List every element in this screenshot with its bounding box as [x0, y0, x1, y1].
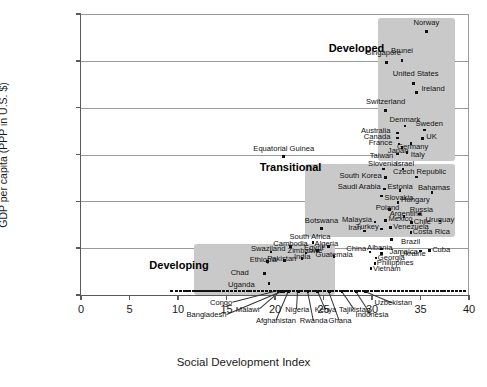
data-point: [226, 290, 229, 292]
x-tick-mark: [274, 295, 275, 300]
point-label: Vietnam: [373, 265, 401, 273]
data-point: [421, 137, 424, 140]
point-label: Cuba: [432, 246, 450, 254]
point-label: Iran: [348, 224, 361, 232]
point-label: Guatemala: [316, 251, 353, 259]
data-point: [390, 238, 393, 241]
point-label: Equatorial Guinea: [253, 145, 314, 153]
y-tick-mark: [76, 201, 81, 202]
data-point: [170, 290, 173, 292]
data-point: [230, 290, 233, 292]
data-point: [436, 290, 439, 292]
point-label: Chad: [231, 269, 249, 277]
data-point: [323, 290, 326, 292]
point-label: Estonia: [387, 183, 412, 191]
point-label: Swaziland: [251, 245, 286, 253]
y-tick-mark: [76, 247, 81, 248]
x-tick-label: 0: [78, 303, 84, 315]
data-point: [261, 290, 264, 292]
data-point: [335, 290, 338, 292]
point-label: Hungary: [401, 196, 430, 204]
data-point: [282, 155, 285, 158]
data-point: [377, 290, 380, 292]
data-point: [451, 290, 454, 292]
data-point: [383, 188, 386, 191]
x-tick-mark: [226, 295, 227, 300]
y-tick-mark: [76, 13, 81, 14]
data-point: [374, 290, 377, 292]
point-label: Switzerland: [366, 98, 405, 106]
data-point: [292, 290, 295, 292]
data-point: [401, 59, 404, 62]
data-point: [385, 61, 388, 64]
data-point: [320, 227, 323, 230]
data-point: [384, 176, 387, 179]
data-point: [463, 290, 466, 292]
x-tick-label: 25: [317, 303, 329, 315]
data-point: [412, 82, 415, 85]
point-label: Czech Republic: [393, 168, 446, 176]
data-point: [396, 137, 399, 140]
data-point: [412, 290, 415, 292]
y-tick-mark: [76, 107, 81, 108]
x-tick-label: 40: [463, 303, 475, 315]
x-tick-label: 20: [269, 303, 281, 315]
point-label: South Korea: [339, 172, 381, 180]
data-point: [265, 290, 268, 292]
point-label: Nigeria: [285, 306, 309, 314]
data-point: [389, 226, 392, 229]
point-label: Malawi: [236, 306, 260, 314]
data-point: [253, 290, 256, 292]
data-point: [389, 290, 392, 292]
data-point: [218, 290, 221, 292]
data-point: [346, 290, 349, 292]
data-point: [420, 290, 423, 292]
data-point: [397, 290, 400, 292]
data-point: [455, 290, 458, 292]
data-point: [246, 290, 249, 292]
point-label: Uzbekistan: [375, 299, 413, 307]
data-point: [404, 125, 407, 128]
data-point: [382, 168, 385, 171]
point-label: Afghanistan: [256, 317, 296, 325]
point-label: Norway: [413, 19, 439, 27]
data-point: [234, 290, 237, 292]
y-tick-mark: [76, 154, 81, 155]
data-point: [175, 290, 178, 292]
x-tick-mark: [323, 295, 324, 300]
data-point: [179, 290, 182, 292]
data-point: [355, 290, 358, 293]
gridline: [81, 14, 469, 15]
data-point: [257, 290, 260, 292]
data-point: [328, 290, 331, 293]
data-point: [409, 290, 412, 292]
data-point: [396, 132, 399, 135]
data-point: [273, 290, 276, 292]
data-point: [297, 290, 300, 293]
point-label: Ghana: [329, 317, 352, 325]
data-point: [415, 176, 418, 179]
cluster-caption-transitional: Transitional: [260, 161, 322, 173]
x-tick-label: 10: [172, 303, 184, 315]
data-point: [384, 109, 387, 112]
data-point: [381, 290, 384, 292]
point-label: Ethiopia: [250, 256, 277, 264]
point-label: India: [294, 253, 310, 261]
x-tick-mark: [420, 295, 421, 300]
data-point: [385, 290, 388, 292]
x-tick-label: 15: [220, 303, 232, 315]
point-label: Albania: [367, 244, 392, 252]
data-point: [428, 290, 431, 292]
point-label: United States: [393, 70, 439, 78]
point-label: Brazil: [401, 238, 420, 246]
x-tick-label: 35: [414, 303, 426, 315]
data-point: [331, 290, 334, 292]
data-point: [242, 290, 245, 292]
data-point: [287, 290, 290, 293]
data-point: [350, 290, 353, 292]
data-point: [416, 290, 419, 292]
data-point: [319, 290, 322, 292]
data-point: [269, 290, 272, 292]
point-label: Rwanda: [300, 317, 328, 325]
data-point: [380, 195, 383, 198]
